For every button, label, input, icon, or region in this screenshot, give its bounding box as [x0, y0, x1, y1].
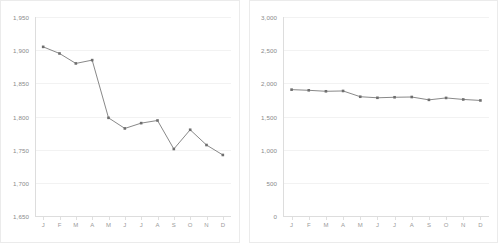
chart-panel-left: 1,6501,7001,7501,8001,8501,9001,950JFMAM… [0, 0, 240, 243]
series-line [292, 90, 481, 101]
x-axis-tick-label: J [140, 222, 143, 228]
data-point-marker [189, 128, 192, 131]
x-axis-tick-label: J [290, 222, 293, 228]
x-axis-tick-label: S [427, 222, 431, 228]
x-axis-tick-mark [377, 217, 378, 220]
data-point-marker [462, 98, 465, 101]
data-point-marker [325, 90, 328, 93]
data-point-marker [479, 99, 482, 102]
line-chart-right: 05001,0001,5002,0002,5003,000JFMAMJJASON… [250, 1, 497, 242]
plot-series-layer [1, 1, 239, 242]
x-axis-tick-label: D [221, 222, 225, 228]
data-point-marker [342, 90, 345, 93]
x-axis-tick-mark [141, 217, 142, 220]
data-point-marker [205, 144, 208, 147]
x-axis-tick-label: F [58, 222, 62, 228]
x-axis-tick-label: J [42, 222, 45, 228]
data-point-marker [445, 97, 448, 100]
x-axis-tick-label: O [188, 222, 193, 228]
x-axis-tick-mark [92, 217, 93, 220]
x-axis-tick-mark [292, 217, 293, 220]
x-axis-tick-label: A [410, 222, 414, 228]
x-axis-tick-mark [343, 217, 344, 220]
x-axis-tick-mark [395, 217, 396, 220]
panel-divider [240, 0, 249, 243]
x-axis-tick-label: N [204, 222, 208, 228]
x-axis-tick-label: D [478, 222, 482, 228]
x-axis-tick-mark [109, 217, 110, 220]
chart-panel-right: 05001,0001,5002,0002,5003,000JFMAMJJASON… [249, 0, 498, 243]
x-axis-tick-label: M [106, 222, 111, 228]
x-axis-tick-label: F [307, 222, 311, 228]
x-axis-tick-mark [446, 217, 447, 220]
x-axis-tick-mark [463, 217, 464, 220]
x-axis-tick-mark [412, 217, 413, 220]
x-axis-tick-mark [158, 217, 159, 220]
data-point-marker [428, 99, 431, 102]
x-axis-tick-mark [309, 217, 310, 220]
data-point-marker [410, 96, 413, 99]
x-axis-tick-label: A [341, 222, 345, 228]
line-chart-left: 1,6501,7001,7501,8001,8501,9001,950JFMAM… [1, 1, 239, 242]
data-point-marker [173, 148, 176, 151]
x-axis-tick-mark [174, 217, 175, 220]
data-point-marker [91, 59, 94, 62]
x-axis-tick-label: J [393, 222, 396, 228]
x-axis-tick-label: J [376, 222, 379, 228]
x-axis-tick-mark [43, 217, 44, 220]
x-axis-tick-labels: JFMAMJJASOND [250, 222, 497, 234]
x-axis-tick-mark [125, 217, 126, 220]
data-point-marker [393, 96, 396, 99]
data-point-marker [58, 52, 61, 55]
data-point-marker [376, 96, 379, 99]
x-axis-tick-mark [480, 217, 481, 220]
x-axis-tick-label: O [444, 222, 449, 228]
x-axis-tick-mark [190, 217, 191, 220]
x-axis-tick-label: N [461, 222, 465, 228]
x-axis-tick-mark [360, 217, 361, 220]
data-point-marker [290, 88, 293, 91]
x-axis-tick-label: J [123, 222, 126, 228]
x-axis-tick-mark [429, 217, 430, 220]
x-axis-tick-mark [76, 217, 77, 220]
series-line [43, 47, 223, 155]
x-axis-tick-label: M [358, 222, 363, 228]
data-point-marker [307, 89, 310, 92]
data-point-marker [222, 154, 225, 157]
x-axis-tick-labels: JFMAMJJASOND [1, 222, 239, 234]
x-axis-tick-mark [326, 217, 327, 220]
x-axis-tick-label: S [172, 222, 176, 228]
data-point-marker [124, 127, 127, 130]
data-point-marker [359, 95, 362, 98]
data-point-marker [156, 119, 159, 122]
x-axis-tick-label: M [73, 222, 78, 228]
x-axis-tick-label: A [90, 222, 94, 228]
chart-board: 1,6501,7001,7501,8001,8501,9001,950JFMAM… [0, 0, 498, 243]
x-axis-tick-mark [223, 217, 224, 220]
data-point-marker [75, 62, 78, 65]
x-axis-tick-mark [60, 217, 61, 220]
data-point-marker [107, 117, 110, 120]
x-axis-tick-mark [207, 217, 208, 220]
x-axis-tick-label: M [323, 222, 328, 228]
data-point-marker [42, 46, 45, 49]
data-point-marker [140, 122, 143, 125]
plot-series-layer [250, 1, 497, 242]
x-axis-tick-label: A [155, 222, 159, 228]
